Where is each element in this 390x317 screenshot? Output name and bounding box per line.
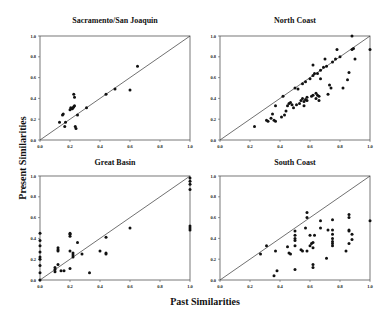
data-point — [327, 229, 330, 232]
data-point — [303, 104, 306, 107]
panel-title-south-coast: South Coast — [274, 158, 316, 167]
data-point — [306, 249, 309, 252]
data-point — [271, 113, 274, 116]
data-point — [54, 266, 57, 269]
data-point — [72, 251, 75, 254]
data-point — [315, 97, 318, 100]
data-point — [294, 244, 297, 247]
data-point — [292, 106, 295, 109]
x-tick-label: 0.6 — [127, 144, 133, 149]
x-tick-label: 0.4 — [97, 144, 103, 149]
y-tick-label: 0.4 — [30, 96, 36, 101]
x-tick-label: 1.0 — [187, 284, 193, 289]
data-point — [336, 48, 339, 51]
data-point — [136, 65, 139, 68]
data-point — [276, 269, 279, 272]
data-point — [294, 237, 297, 240]
data-point — [289, 253, 292, 256]
y-tick-label: 1.0 — [30, 34, 36, 39]
y-tick-label: 1.0 — [210, 174, 216, 179]
data-point — [301, 249, 304, 252]
data-point — [331, 237, 334, 240]
y-tick-label: 0.2 — [30, 257, 36, 262]
data-point — [351, 238, 354, 241]
x-tick-label: 0.4 — [277, 144, 283, 149]
data-point — [270, 117, 273, 120]
data-point — [114, 88, 117, 91]
y-tick-label: 0.8 — [30, 194, 36, 199]
data-point — [69, 249, 72, 252]
data-point — [63, 125, 66, 128]
data-point — [274, 104, 277, 107]
x-tick-label: 1.0 — [367, 284, 373, 289]
data-point — [75, 127, 78, 130]
data-point — [294, 234, 297, 237]
data-point — [73, 104, 76, 107]
y-tick-label: 0.6 — [30, 75, 36, 80]
data-point — [88, 271, 91, 274]
x-tick-label: 0.4 — [277, 284, 283, 289]
y-tick-label: 0.2 — [210, 257, 216, 262]
x-tick-label: 0.8 — [157, 284, 163, 289]
panel-great-basin: 0.00.20.40.60.81.00.00.20.40.60.81.0 — [30, 174, 193, 290]
data-point — [129, 89, 132, 92]
data-point — [39, 244, 42, 247]
data-point — [99, 249, 102, 252]
data-point — [105, 251, 108, 254]
x-tick-label: 0.4 — [97, 284, 103, 289]
data-point — [351, 233, 354, 236]
data-point — [60, 269, 63, 272]
panel-title-great-basin: Great Basin — [95, 158, 137, 167]
data-point — [309, 234, 312, 237]
data-point — [189, 224, 192, 227]
data-point — [273, 274, 276, 277]
data-point — [189, 183, 192, 186]
data-point — [76, 114, 79, 117]
data-point — [319, 69, 322, 72]
data-point — [189, 177, 192, 180]
x-tick-label: 1.0 — [187, 144, 193, 149]
data-point — [69, 232, 72, 235]
data-point — [39, 239, 42, 242]
data-point — [39, 250, 42, 253]
data-point — [72, 93, 75, 96]
data-point — [352, 47, 355, 50]
data-point — [312, 263, 315, 266]
data-point — [346, 78, 349, 81]
data-point — [354, 57, 357, 60]
y-tick-label: 1.0 — [30, 174, 36, 179]
data-point — [342, 87, 345, 90]
x-tick-label: 0.6 — [307, 144, 313, 149]
data-point — [297, 88, 300, 91]
data-point — [301, 97, 304, 100]
data-point — [313, 234, 316, 237]
data-point — [318, 95, 321, 98]
data-point — [105, 236, 108, 239]
panel-sacramento: 0.00.20.40.60.81.00.00.20.40.60.81.0 — [30, 34, 193, 150]
data-point — [57, 263, 60, 266]
data-point — [306, 211, 309, 214]
x-tick-label: 0.0 — [37, 144, 43, 149]
data-point — [319, 219, 322, 222]
data-point — [189, 188, 192, 191]
y-tick-label: 0.0 — [30, 138, 36, 143]
x-tick-label: 0.0 — [217, 144, 223, 149]
data-point — [318, 99, 321, 102]
data-point — [294, 268, 297, 271]
data-point — [294, 87, 297, 90]
data-point — [334, 57, 337, 60]
data-point — [280, 116, 283, 119]
x-axis-label: Past Similarities — [170, 296, 240, 307]
data-point — [328, 83, 331, 86]
data-point — [312, 241, 315, 244]
data-point — [313, 72, 316, 75]
data-point — [295, 103, 298, 106]
y-tick-label: 0.4 — [210, 236, 216, 241]
y-tick-label: 0.2 — [210, 117, 216, 122]
data-point — [105, 93, 108, 96]
data-point — [39, 271, 42, 274]
data-point — [39, 256, 42, 259]
data-point — [306, 96, 309, 99]
data-point — [345, 249, 348, 252]
data-point — [64, 121, 67, 124]
